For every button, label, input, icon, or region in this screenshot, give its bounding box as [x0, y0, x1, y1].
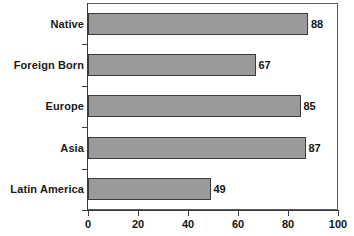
x-axis-tick-label: 60 [232, 218, 244, 230]
bar-row: Foreign Born 67 [0, 44, 354, 85]
bar-value-asia: 87 [309, 142, 321, 154]
x-axis-tick [288, 211, 289, 216]
y-axis-tick [82, 86, 88, 87]
bar-value-latin-america: 49 [214, 183, 226, 195]
category-label-asia: Asia [60, 142, 84, 154]
y-axis-tick [82, 127, 88, 128]
bar-foreign-born[interactable] [88, 54, 256, 76]
category-label-latin-america: Latin America [10, 183, 84, 195]
bars-layer: Native 88 Foreign Born 67 Europe 85 Asia… [0, 3, 354, 210]
bar-value-native: 88 [311, 18, 323, 30]
x-axis-tick [138, 211, 139, 216]
x-axis-tick [188, 211, 189, 216]
x-axis-tick-label: 100 [329, 218, 347, 230]
category-label-native: Native [50, 18, 84, 30]
y-axis-tick [82, 44, 88, 45]
bar-row: Native 88 [0, 3, 354, 44]
x-axis-tick [88, 211, 89, 216]
bar-asia[interactable] [88, 137, 306, 159]
x-axis-tick-label: 0 [85, 218, 91, 230]
y-axis-tick [82, 169, 88, 170]
bar-native[interactable] [88, 13, 308, 35]
x-axis-tick-label: 80 [282, 218, 294, 230]
bar-value-foreign-born: 67 [259, 59, 271, 71]
x-axis-tick-label: 20 [132, 218, 144, 230]
bar-latin-america[interactable] [88, 178, 211, 200]
bar-row: Asia 87 [0, 127, 354, 168]
bar-row: Latin America 49 [0, 169, 354, 210]
category-label-europe: Europe [46, 100, 85, 112]
bar-europe[interactable] [88, 95, 301, 117]
x-axis-tick-label: 40 [182, 218, 194, 230]
bar-value-europe: 85 [304, 100, 316, 112]
category-label-foreign-born: Foreign Born [14, 59, 84, 71]
bar-row: Europe 85 [0, 86, 354, 127]
x-axis-tick [338, 211, 339, 216]
x-axis-line [87, 210, 339, 211]
bar-chart: Native 88 Foreign Born 67 Europe 85 Asia… [0, 0, 354, 236]
x-axis-tick [238, 211, 239, 216]
